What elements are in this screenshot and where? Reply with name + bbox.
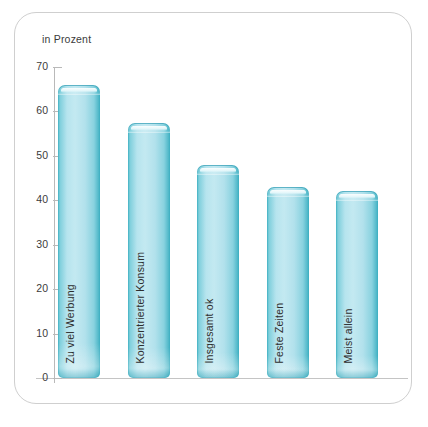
y-axis-tick-label: 60 [36,104,48,116]
bar: Insgesamt ok [197,165,239,378]
bar-base-shading [128,369,170,378]
x-axis-baseline [36,378,408,379]
y-axis-tick-label: 30 [36,238,48,250]
bar-category-label: Insgesamt ok [197,198,239,368]
bar-category-label-text: Meist allein [343,309,354,364]
bar-category-label: Meist allein [336,198,378,368]
bar: Konzentrierter Konsum [128,123,170,378]
bar-category-label-text: Zu viel Werbung [65,285,76,364]
y-axis-tick-label: 0 [42,371,48,383]
bar-category-label: Konzentrierter Konsum [128,198,170,368]
bar-base-shading [197,369,239,378]
y-axis-tick: 20 [22,289,62,290]
y-axis-tick-label: 70 [36,60,48,72]
bar-chart: in Prozent 010203040506070 Zu viel Werbu… [0,0,428,427]
y-axis-tick: 50 [22,156,62,157]
bar-base-shading [336,369,378,378]
bar: Zu viel Werbung [58,85,100,378]
bar-category-label: Zu viel Werbung [58,198,100,368]
y-axis-line [54,67,55,383]
y-axis-tick-mark [53,67,62,68]
y-axis-tick: 40 [22,200,62,201]
bar-base-shading [267,369,309,378]
unit-caption: in Prozent [42,33,91,45]
y-axis-tick-label: 20 [36,282,48,294]
y-axis-tick: 60 [22,111,62,112]
bar-base-shading [58,369,100,378]
y-axis-tick-label: 40 [36,193,48,205]
y-axis-tick-label: 10 [36,327,48,339]
bar-category-label: Feste Zeiten [267,198,309,368]
y-axis-tick: 30 [22,245,62,246]
bar-category-label-text: Feste Zeiten [273,303,284,364]
y-axis-tick: 0 [22,378,62,379]
y-axis-tick: 70 [22,67,62,68]
bar: Meist allein [336,191,378,378]
bar-category-label-text: Insgesamt ok [204,299,215,364]
bar-category-label-text: Konzentrierter Konsum [134,252,145,364]
y-axis-tick-label: 50 [36,149,48,161]
y-axis-tick: 10 [22,334,62,335]
bar: Feste Zeiten [267,187,309,378]
y-axis-tick-mark [53,378,62,379]
